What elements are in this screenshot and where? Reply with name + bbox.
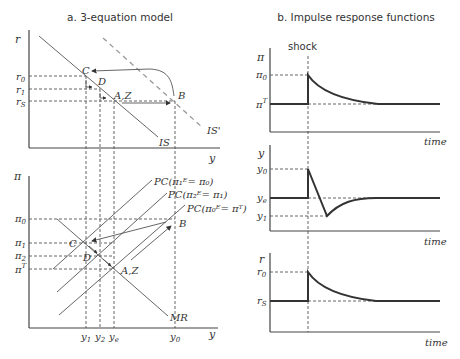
shock-label: shock <box>288 41 317 52</box>
pi-response-line <box>270 75 440 104</box>
panel-a-title: a. 3-equation model <box>67 11 173 23</box>
piT-label: πT <box>14 262 28 275</box>
is-prime-curve <box>103 38 203 128</box>
point-b-bottom: B <box>178 218 186 229</box>
piT-tick: πT <box>255 97 269 110</box>
r-chart-y-label: r <box>259 253 265 266</box>
point-b-top: B <box>177 90 185 101</box>
r0-label: r0 <box>16 71 26 84</box>
point-c-top: C <box>82 65 90 76</box>
y0-tick: y0 <box>256 163 268 176</box>
y-response-chart: y y0 ye y1 time <box>256 145 447 247</box>
rs-tick: rS <box>257 295 267 308</box>
r-axis-label: r <box>15 33 21 46</box>
r-response-line <box>270 272 440 301</box>
point-az-top: A,Z <box>113 90 132 101</box>
r-response-chart: r r0 rS time <box>257 253 448 348</box>
is-prime-label: IS' <box>206 125 221 136</box>
pi0-label: π0 <box>14 213 27 226</box>
y-axis-label-bottom: y <box>208 328 216 341</box>
y2-label: y2 <box>94 331 106 344</box>
pi-chart-y-label: π <box>256 51 265 64</box>
y1-label: y1 <box>80 331 91 344</box>
panel-b-title: b. Impulse response functions <box>277 11 435 23</box>
pi-axis-label: π <box>13 170 22 183</box>
pc1-label: PC(π₁ᴱ= π₀) <box>153 176 214 187</box>
ye-tick: ye <box>256 192 267 205</box>
point-d-bottom: D <box>82 252 91 263</box>
pi-response-chart: π π0 πT time <box>255 48 447 147</box>
y-axis-label-top: y <box>208 152 216 165</box>
pc0-label: PC(π₀ᴱ= πᵀ) <box>186 203 247 214</box>
pc0-curve <box>59 205 185 315</box>
rs-label: rS <box>16 96 26 109</box>
ye-label: ye <box>108 331 119 344</box>
mr-curve <box>57 219 168 316</box>
pc2-label: PC(π₂ᴱ= π₁) <box>167 189 228 200</box>
y1-tick: y1 <box>256 210 267 223</box>
r-chart-time-label: time <box>425 337 448 348</box>
pc-mr-diagram: π y π0 π1 π2 πT y1 y2 ye y0 PC(π₁ᴱ= π₀) … <box>13 170 247 344</box>
y-chart-y-label: y <box>257 147 265 160</box>
point-c-bottom: C <box>69 238 77 249</box>
r0-tick: r0 <box>257 266 267 279</box>
pc1-curve <box>53 180 152 269</box>
pi0-tick: π0 <box>255 69 268 82</box>
mr-label: MR <box>169 312 188 323</box>
y-response-line <box>270 169 440 216</box>
is-label: IS <box>158 137 170 148</box>
three-equation-model-figure: a. 3-equation model r y r0 r1 rS IS IS' … <box>0 0 460 359</box>
pi-chart-time-label: time <box>424 136 447 147</box>
point-d-top: D <box>97 76 106 87</box>
y-chart-time-label: time <box>424 236 447 247</box>
pi1-label: π1 <box>14 237 26 250</box>
point-az-bottom: A,Z <box>120 265 139 276</box>
y0-label: y0 <box>169 331 181 344</box>
